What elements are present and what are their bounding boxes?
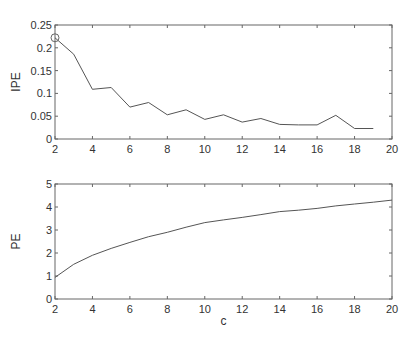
x-tick-label: 14	[274, 303, 286, 315]
y-axis-label: IPE	[9, 72, 23, 91]
pe-plot: 2468101214161820012345PEc	[9, 178, 398, 328]
x-tick-label: 14	[274, 143, 286, 155]
y-tick-label: 0	[46, 293, 52, 305]
series-line-pe	[55, 200, 392, 277]
y-tick-label: 1	[46, 270, 52, 282]
y-tick-label: 0.2	[37, 42, 52, 54]
x-tick-label: 8	[164, 143, 170, 155]
chart-canvas: 246810121416182000.050.10.150.20.25IPE 2…	[0, 0, 420, 338]
x-tick-label: 18	[348, 143, 360, 155]
x-tick-label: 12	[236, 143, 248, 155]
x-tick-label: 6	[127, 143, 133, 155]
series-line-ipe	[55, 38, 373, 129]
y-tick-label: 0.25	[31, 19, 52, 31]
y-tick-label: 3	[46, 224, 52, 236]
axes-box	[55, 25, 392, 139]
x-tick-label: 12	[236, 303, 248, 315]
x-tick-label: 4	[89, 143, 95, 155]
x-tick-label: 20	[386, 143, 398, 155]
x-axis-label: c	[221, 314, 227, 328]
x-tick-label: 8	[164, 303, 170, 315]
ipe-plot: 246810121416182000.050.10.150.20.25IPE	[9, 19, 398, 155]
y-axis-label: PE	[9, 233, 23, 249]
x-tick-label: 2	[52, 303, 58, 315]
x-tick-label: 16	[311, 143, 323, 155]
x-tick-label: 20	[386, 303, 398, 315]
y-tick-label: 0.15	[31, 65, 52, 77]
axes-box	[55, 184, 392, 299]
x-tick-label: 10	[199, 303, 211, 315]
x-tick-label: 4	[89, 303, 95, 315]
x-tick-label: 2	[52, 143, 58, 155]
y-tick-label: 0	[46, 133, 52, 145]
y-tick-label: 0.1	[37, 87, 52, 99]
figure: 246810121416182000.050.10.150.20.25IPE 2…	[0, 0, 420, 338]
y-tick-label: 5	[46, 178, 52, 190]
y-tick-label: 2	[46, 247, 52, 259]
x-tick-label: 10	[199, 143, 211, 155]
x-tick-label: 6	[127, 303, 133, 315]
y-tick-label: 0.05	[31, 110, 52, 122]
y-tick-label: 4	[46, 201, 52, 213]
x-tick-label: 18	[348, 303, 360, 315]
x-tick-label: 16	[311, 303, 323, 315]
